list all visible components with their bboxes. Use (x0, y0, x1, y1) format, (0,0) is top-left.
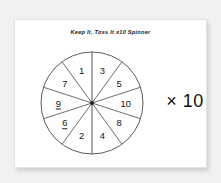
worksheet-title: Keep It, Toss It x10 Spinner (15, 29, 206, 35)
spinner-wheel[interactable]: 35108426971 (37, 48, 147, 158)
multiplier-label: × 10 (158, 91, 212, 112)
spinner-hub (90, 101, 94, 105)
spinner-sector-5: 5 (117, 78, 122, 89)
spinner-sector-4: 4 (100, 130, 105, 141)
spinner-sector-1: 1 (79, 65, 84, 76)
spinner-graphic: 35108426971 (37, 48, 147, 158)
spinner-sector-3: 3 (100, 65, 105, 76)
page-background: Keep It, Toss It x10 Spinner 35108426971… (0, 0, 221, 183)
spinner-sector-2: 2 (79, 130, 84, 141)
spinner-sector-6: 6 (62, 117, 67, 128)
spinner-sector-7: 7 (62, 78, 67, 89)
spinner-sector-8: 8 (117, 117, 122, 128)
spinner-sector-10: 10 (120, 98, 130, 109)
worksheet-card: Keep It, Toss It x10 Spinner 35108426971… (14, 19, 207, 168)
spinner-sector-9: 9 (56, 98, 61, 109)
